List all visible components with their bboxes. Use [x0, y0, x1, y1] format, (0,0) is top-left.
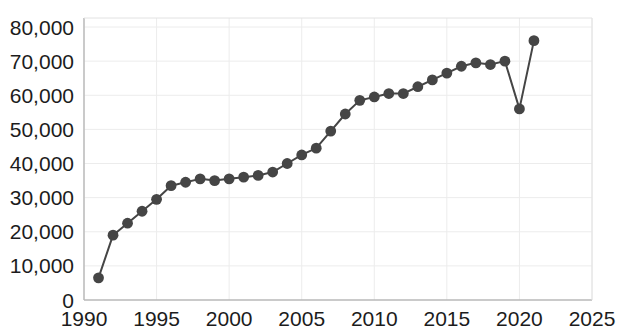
x-tick-label: 2010 [351, 307, 398, 330]
data-point [340, 109, 351, 120]
y-axis-tick-labels: 010,00020,00030,00040,00050,00060,00070,… [10, 16, 74, 312]
data-point [529, 35, 540, 46]
data-point [470, 57, 481, 68]
data-point [369, 92, 380, 103]
data-point [514, 104, 525, 115]
data-point [325, 126, 336, 137]
x-tick-label: 2000 [206, 307, 253, 330]
data-point [238, 172, 249, 183]
x-tick-label: 2020 [496, 307, 543, 330]
y-tick-label: 20,000 [10, 220, 74, 243]
data-point [195, 173, 206, 184]
data-point [137, 206, 148, 217]
chart-canvas: 010,00020,00030,00040,00050,00060,00070,… [0, 0, 625, 332]
data-point [383, 88, 394, 99]
data-point [311, 143, 322, 154]
data-point [456, 61, 467, 72]
y-tick-label: 50,000 [10, 118, 74, 141]
data-point [93, 272, 104, 283]
data-point [427, 74, 438, 85]
data-point [209, 175, 220, 186]
data-point [122, 218, 133, 229]
plot-background [84, 18, 592, 300]
x-tick-label: 2005 [278, 307, 325, 330]
y-tick-label: 30,000 [10, 186, 74, 209]
data-point [296, 150, 307, 161]
x-tick-label: 1995 [133, 307, 180, 330]
y-tick-label: 10,000 [10, 254, 74, 277]
data-point [108, 230, 119, 241]
data-point [412, 81, 423, 92]
data-point [180, 177, 191, 188]
x-tick-label: 2025 [569, 307, 616, 330]
data-point [253, 170, 264, 181]
x-tick-label: 2015 [423, 307, 470, 330]
data-point [166, 180, 177, 191]
line-chart: 010,00020,00030,00040,00050,00060,00070,… [0, 0, 625, 332]
data-point [441, 68, 452, 79]
x-tick-label: 1990 [61, 307, 108, 330]
y-tick-label: 60,000 [10, 84, 74, 107]
y-tick-label: 40,000 [10, 152, 74, 175]
y-tick-label: 80,000 [10, 16, 74, 39]
data-point [354, 95, 365, 106]
data-point [151, 194, 162, 205]
x-axis-tick-labels: 19901995200020052010201520202025 [61, 307, 616, 330]
y-tick-label: 70,000 [10, 50, 74, 73]
data-point [500, 56, 511, 67]
data-point [398, 88, 409, 99]
data-point [282, 158, 293, 169]
data-point [267, 167, 278, 178]
data-point [224, 173, 235, 184]
data-point [485, 59, 496, 70]
